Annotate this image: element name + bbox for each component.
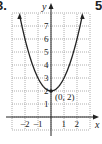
- vertex-label: (0, 2): [55, 92, 75, 102]
- y-axis-arrow-icon: [49, 3, 54, 9]
- y-tick-label: 7: [44, 21, 49, 31]
- curve-arrow-left-icon: [17, 13, 22, 19]
- y-tick-label: 4: [44, 60, 49, 70]
- vertex-point: [49, 89, 53, 93]
- x-axis-label: x: [94, 119, 100, 130]
- y-tick-label: 1: [44, 99, 49, 109]
- parabola-graph: xy−2−1121234567(0, 2): [0, 0, 102, 144]
- curve-arrow-right-icon: [80, 13, 85, 19]
- y-axis-label: y: [41, 1, 47, 12]
- x-tick-label: −2: [20, 119, 30, 129]
- y-tick-label: 6: [44, 34, 49, 44]
- x-tick-label: −1: [33, 119, 43, 129]
- y-tick-label: 5: [44, 47, 49, 57]
- y-tick-label: 3: [44, 73, 49, 83]
- x-tick-label: 1: [62, 119, 67, 129]
- x-tick-label: 2: [75, 119, 80, 129]
